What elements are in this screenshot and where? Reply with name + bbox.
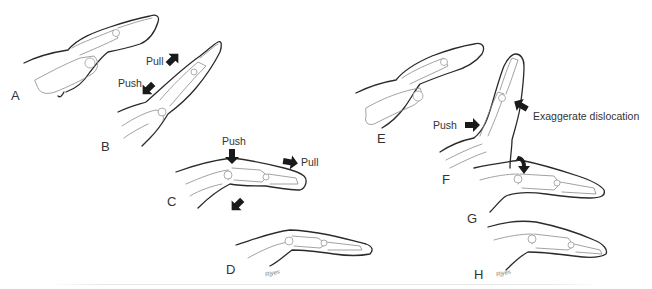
arrow-b-pull-icon (163, 49, 184, 70)
annotation-c-push: Push (222, 136, 246, 147)
panel-b-drawing (118, 42, 221, 146)
panel-label-e: E (377, 132, 386, 145)
arrow-g-curved-icon (516, 156, 530, 174)
annotation-f-exaggerate: Exaggerate dislocation (533, 111, 639, 122)
finger-reduction-illustration: A B C D E F G H Pull Push Push Pull Push… (0, 0, 652, 289)
annotation-b-push: Push (118, 78, 142, 89)
panel-label-g: G (467, 212, 477, 225)
panel-h-drawing (488, 221, 607, 270)
arrow-f-push-icon (465, 118, 480, 132)
arrow-c-push-icon (225, 149, 239, 164)
panel-label-b: B (101, 140, 110, 153)
panel-label-a: A (11, 89, 20, 102)
faint-scan-line (50, 284, 600, 285)
panel-label-c: C (167, 195, 176, 208)
illustration-artwork (0, 0, 652, 289)
panel-g-drawing (474, 160, 604, 212)
annotation-b-pull: Pull (146, 56, 164, 67)
panel-f-drawing (440, 54, 524, 168)
arrow-c-down-icon (227, 195, 248, 216)
panel-label-d: D (226, 263, 235, 276)
panel-label-h: H (474, 268, 483, 281)
panel-d-drawing (236, 230, 372, 266)
panel-e-drawing (356, 43, 484, 128)
annotation-c-pull: Pull (301, 157, 319, 168)
annotation-f-push: Push (433, 120, 457, 131)
panel-label-f: F (442, 173, 450, 186)
